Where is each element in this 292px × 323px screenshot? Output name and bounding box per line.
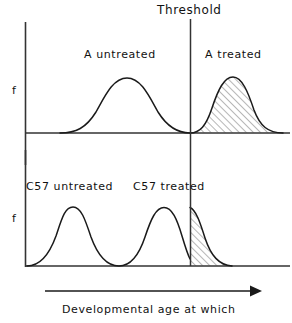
panel-a-axes [25, 22, 290, 165]
x-axis-label: Developmental age at which [62, 303, 236, 316]
panel-c57-axes [25, 150, 290, 267]
threshold-distribution-figure: Threshold A untreated A treated C57 untr… [0, 0, 292, 323]
curve-c57-untreated-and-treated [27, 207, 190, 266]
label-c57-treated: C57 treated [133, 180, 205, 193]
panel-a-y-axis-label: f [12, 84, 16, 97]
panel-c57-y-axis-label: f [12, 212, 16, 225]
threshold-title: Threshold [157, 3, 222, 17]
x-axis-direction-arrow [45, 286, 262, 297]
curve-a-untreated [60, 78, 190, 133]
label-c57-untreated: C57 untreated [26, 180, 113, 193]
label-a-untreated: A untreated [84, 48, 156, 61]
label-a-treated: A treated [205, 48, 262, 61]
